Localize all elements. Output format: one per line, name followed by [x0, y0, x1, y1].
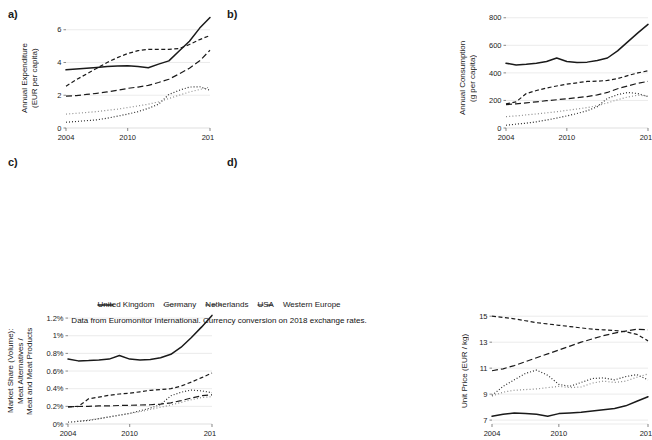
legend-key-dotted-icon: [163, 301, 180, 309]
figure-caption: Data from Euromonitor International. Cur…: [0, 316, 438, 325]
y-tick-label: 4: [57, 58, 61, 67]
y-tick-label: 15: [479, 312, 487, 321]
y-tick-label: 200: [489, 96, 502, 105]
x-tick-label: 2010: [559, 133, 576, 142]
y-tick-label: 7: [483, 416, 487, 425]
panel-d-y-axis-title: Unit Price (EUR / kg): [460, 312, 472, 430]
series-line-united-kingdom: [492, 397, 648, 416]
panel-c-tag: c): [8, 156, 18, 168]
panel-a-plot: 0246200420102018: [42, 8, 214, 144]
series-line-usa: [492, 329, 648, 371]
y-tick-label: 400: [489, 69, 502, 78]
x-tick-label: 2010: [119, 133, 136, 142]
legend-item-usa[interactable]: USA: [257, 300, 273, 309]
legend-key-solid-icon: [97, 301, 114, 309]
series-line-western-europe: [492, 374, 648, 396]
legend: United KingdomGermanyNetherlandsUSAWeste…: [0, 297, 438, 312]
series-line-western-europe: [66, 87, 210, 114]
y-tick-label: 800: [489, 13, 502, 22]
y-tick-label: 0.2%: [46, 402, 63, 411]
panel-a-tag: a): [8, 8, 18, 20]
panel-b-tag: b): [227, 8, 237, 20]
x-tick-label: 2004: [60, 429, 77, 438]
panel-d-plot: 79111315200420102018: [472, 304, 652, 440]
panel-c-y-axis-title: Market Share (Volume): Meat Alternatives…: [6, 306, 40, 436]
x-tick-label: 2010: [551, 429, 568, 438]
legend-key-longdash-icon: [257, 301, 274, 309]
series-line-western-europe: [68, 397, 212, 423]
series-line-netherlands: [68, 373, 212, 407]
y-tick-label: 11: [480, 364, 488, 373]
y-tick-label: 9: [483, 390, 487, 399]
x-tick-label: 2018: [202, 133, 214, 142]
y-tick-label: 0.8%: [46, 349, 63, 358]
y-tick-label: 1%: [53, 331, 64, 340]
y-tick-label: 0: [497, 124, 501, 133]
series-line-usa: [68, 395, 212, 407]
y-tick-label: 6: [57, 25, 61, 34]
panel-b-y-axis-title: Annual Consumption (g per capita): [458, 16, 480, 140]
y-tick-label: 13: [479, 338, 487, 347]
panel-a: a) Annual Expenditure (EUR per capita) 0…: [0, 0, 219, 148]
x-tick-label: 2004: [58, 133, 75, 142]
x-tick-label: 2018: [640, 429, 652, 438]
panel-a-y-axis-title: Annual Expenditure (EUR per capita): [20, 16, 42, 140]
legend-item-western-europe[interactable]: Western Europe: [283, 300, 341, 309]
panel-c: c) Market Share (Volume): Meat Alternati…: [0, 148, 219, 296]
x-tick-label: 2004: [484, 429, 501, 438]
x-tick-label: 2018: [204, 429, 216, 438]
legend-item-germany[interactable]: Germany: [163, 300, 196, 309]
y-tick-label: 0%: [53, 420, 64, 429]
panel-b-plot: 0200400600800200420102018: [480, 8, 652, 144]
y-tick-label: 2: [57, 91, 61, 100]
series-line-netherlands: [492, 316, 648, 341]
series-line-netherlands: [506, 71, 648, 104]
legend-item-united-kingdom[interactable]: United Kingdom: [97, 300, 154, 309]
y-tick-label: 0.4%: [46, 384, 63, 393]
panel-d-tag: d): [227, 156, 237, 168]
y-tick-label: 600: [489, 41, 502, 50]
legend-key-dashed-icon: [205, 301, 222, 309]
y-tick-label: 0.6%: [46, 367, 63, 376]
y-tick-label: 0: [57, 124, 61, 133]
series-line-united-kingdom: [66, 17, 210, 69]
panel-d: d) Unit Price (EUR / kg) 791113152004201…: [219, 148, 438, 296]
legend-key-fine-dotted-icon: [283, 301, 300, 309]
series-line-united-kingdom: [506, 24, 648, 65]
panel-b: b) Annual Consumption (g per capita) 020…: [219, 0, 438, 148]
series-line-germany: [492, 370, 648, 395]
x-tick-label: 2018: [640, 133, 652, 142]
legend-item-netherlands[interactable]: Netherlands: [205, 300, 248, 309]
series-line-usa: [66, 50, 210, 96]
x-tick-label: 2004: [498, 133, 515, 142]
x-tick-label: 2010: [121, 429, 138, 438]
